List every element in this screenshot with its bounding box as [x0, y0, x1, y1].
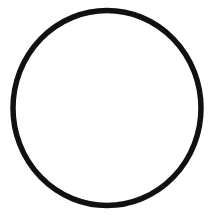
image-canvas: [0, 0, 221, 220]
circle-figure: [0, 0, 221, 220]
background-rect: [0, 0, 221, 220]
